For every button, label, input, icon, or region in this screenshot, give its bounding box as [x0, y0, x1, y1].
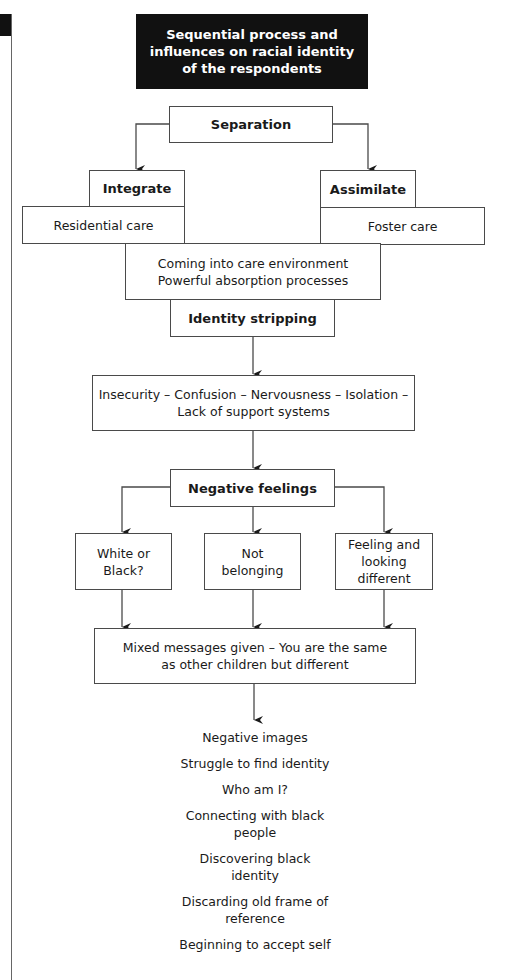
- step-item: Struggle to find identity: [170, 755, 340, 772]
- node-insecurity: Insecurity – Confusion – Nervousness – I…: [92, 375, 415, 431]
- step-item: Connecting with black people: [170, 807, 340, 841]
- node-care-environment: Coming into care environment Powerful ab…: [125, 243, 381, 300]
- node-white-or-black: White or Black?: [75, 533, 172, 590]
- step-item: Negative images: [170, 729, 340, 746]
- node-residential-care: Residential care: [22, 206, 185, 244]
- node-not-belonging: Not belonging: [204, 533, 301, 590]
- step-item: Discarding old frame of reference: [170, 893, 340, 927]
- diagram-title: Sequential process and influences on rac…: [136, 14, 368, 89]
- node-foster-care: Foster care: [320, 207, 485, 245]
- step-item: Discovering black identity: [170, 850, 340, 884]
- node-negative-feelings: Negative feelings: [170, 469, 335, 507]
- node-mixed-messages: Mixed messages given – You are the same …: [94, 628, 416, 684]
- node-feeling-looking-different: Feeling and looking different: [335, 533, 433, 590]
- node-assimilate: Assimilate: [320, 170, 416, 208]
- identity-steps-list: Negative images Struggle to find identit…: [170, 729, 340, 962]
- node-separation: Separation: [169, 106, 333, 143]
- step-item: Who am I?: [170, 781, 340, 798]
- node-integrate: Integrate: [89, 170, 185, 207]
- node-identity-stripping: Identity stripping: [170, 299, 335, 337]
- step-item: Beginning to accept self: [170, 936, 340, 953]
